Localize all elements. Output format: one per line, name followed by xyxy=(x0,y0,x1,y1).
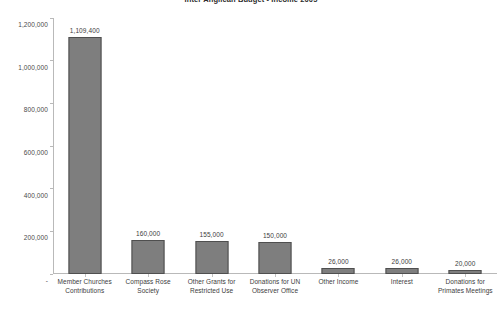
y-axis: -200,000400,000600,000800,0001,000,0001,… xyxy=(0,18,53,275)
bar-slot: 160,000 xyxy=(116,18,179,274)
x-axis-tick-mark xyxy=(212,274,213,277)
y-axis-tick: 600,000 xyxy=(0,141,53,151)
y-axis-tick-label: 200,000 xyxy=(24,233,53,243)
bar-value-label: 26,000 xyxy=(328,258,348,265)
x-axis-category-line: Interest xyxy=(370,278,433,287)
chart-title: Inter Anglican Budget - Income 2005 xyxy=(0,0,502,4)
bar-value-label: 150,000 xyxy=(263,232,287,239)
bar[interactable] xyxy=(132,240,165,274)
bar-slot: 1,109,400 xyxy=(53,18,116,274)
y-axis-tick-label: 800,000 xyxy=(24,105,53,115)
y-axis-tick-label: - xyxy=(46,276,53,286)
x-axis-tick-mark xyxy=(402,274,403,277)
bar-slot: 26,000 xyxy=(307,18,370,274)
x-axis-labels: Member ChurchesContributionsCompass Rose… xyxy=(53,278,497,312)
y-axis-tick: 1,200,000 xyxy=(0,13,53,23)
x-axis-category-line: Restricted Use xyxy=(180,287,243,296)
y-axis-tick-label: 1,000,000 xyxy=(18,63,53,73)
bar-value-label: 26,000 xyxy=(392,258,412,265)
x-axis-category-label: Other Income xyxy=(307,278,370,287)
bar-slot: 155,000 xyxy=(180,18,243,274)
y-axis-tick-label: 400,000 xyxy=(24,191,53,201)
bar-value-label: 155,000 xyxy=(199,231,223,238)
y-axis-tick: 400,000 xyxy=(0,184,53,194)
bar-value-label: 1,109,400 xyxy=(70,27,100,34)
x-axis-tick-mark xyxy=(338,274,339,277)
x-axis-tick-mark xyxy=(275,274,276,277)
x-axis-tick-mark xyxy=(148,274,149,277)
x-axis-category-line: Society xyxy=(116,287,179,296)
x-axis-category-label: Member ChurchesContributions xyxy=(53,278,116,295)
x-axis-category-line: Observer Office xyxy=(243,287,306,296)
bar[interactable] xyxy=(68,37,101,274)
y-axis-tick-label: 600,000 xyxy=(24,148,53,158)
bar-slot: 20,000 xyxy=(434,18,497,274)
x-axis-category-label: Other Grants forRestricted Use xyxy=(180,278,243,295)
x-axis-category-label: Compass RoseSociety xyxy=(116,278,179,295)
x-axis-category-label: Donations for UNObserver Office xyxy=(243,278,306,295)
x-axis-tick-mark xyxy=(465,274,466,277)
x-axis-category-line: Compass Rose xyxy=(116,278,179,287)
x-axis-category-line: Primates Meetings xyxy=(434,287,497,296)
y-axis-tick-label: 1,200,000 xyxy=(18,20,53,30)
x-axis-category-label: Interest xyxy=(370,278,433,287)
x-axis-category-line: Contributions xyxy=(53,287,116,296)
bars-layer: 1,109,400160,000155,000150,00026,00026,0… xyxy=(53,18,497,274)
bar-value-label: 160,000 xyxy=(136,230,160,237)
x-axis-category-line: Member Churches xyxy=(53,278,116,287)
bar-value-label: 20,000 xyxy=(455,260,475,267)
x-axis-category-label: Donations forPrimates Meetings xyxy=(434,278,497,295)
y-axis-tick: 800,000 xyxy=(0,98,53,108)
y-axis-tick: 1,000,000 xyxy=(0,56,53,66)
y-axis-tick: 200,000 xyxy=(0,226,53,236)
bar-slot: 150,000 xyxy=(243,18,306,274)
y-axis-tick: - xyxy=(0,269,53,279)
x-axis-tick-mark xyxy=(85,274,86,277)
x-axis-category-line: Other Grants for xyxy=(180,278,243,287)
x-axis-category-line: Other Income xyxy=(307,278,370,287)
bar-chart: Inter Anglican Budget - Income 2005 -200… xyxy=(0,0,502,313)
bar[interactable] xyxy=(258,242,291,274)
bar-slot: 26,000 xyxy=(370,18,433,274)
x-axis-category-line: Donations for xyxy=(434,278,497,287)
bar[interactable] xyxy=(195,241,228,274)
x-axis-category-line: Donations for UN xyxy=(243,278,306,287)
